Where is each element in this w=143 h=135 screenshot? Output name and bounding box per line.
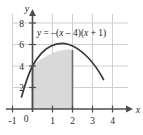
- equation-mid: – 4)(: [63, 28, 84, 39]
- y-tick-labels: 2 4 6 8: [19, 19, 24, 94]
- equation-equals: =: [41, 28, 51, 38]
- x-tick-label-origin: 0: [24, 114, 29, 124]
- y-tick-label: 8: [19, 19, 24, 29]
- equation-minus: –(: [50, 28, 59, 39]
- parabola-chart: -1 0 1 2 3 4 2 4 6 8 y x y = –(x – 4)(x …: [0, 0, 143, 135]
- y-tick-label: 4: [19, 62, 24, 72]
- x-tick-labels: -1 0 1 2 3 4: [9, 114, 116, 126]
- equation-end: + 1): [88, 28, 106, 39]
- x-tick-label: -1: [9, 116, 17, 126]
- x-tick-label: 4: [110, 116, 115, 126]
- x-tick-label: 3: [90, 116, 95, 126]
- figure-container: -1 0 1 2 3 4 2 4 6 8 y x y = –(x – 4)(x …: [0, 0, 143, 135]
- y-axis-arrow: [29, 9, 36, 16]
- x-tick-label: 1: [50, 116, 55, 126]
- shaded-area-region: [33, 50, 73, 109]
- equation-label: y = –(x – 4)(x + 1): [36, 28, 106, 39]
- y-axis-label: y: [24, 3, 30, 14]
- x-axis-arrow: [126, 106, 133, 113]
- x-axis-label: x: [135, 104, 141, 115]
- y-tick-label: 2: [19, 83, 24, 93]
- x-tick-label: 2: [70, 116, 75, 126]
- y-tick-label: 6: [19, 40, 24, 50]
